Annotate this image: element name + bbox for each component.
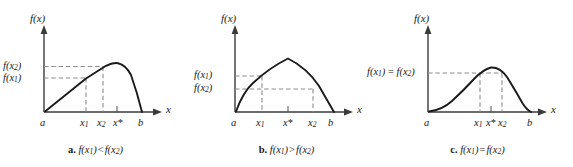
panel-b-plot bbox=[191, 0, 382, 167]
unimodal-function-figure: f(x) x f(x2) f(x1) a x1 x2 x* b a. f(x1)… bbox=[0, 0, 573, 167]
tick-label-a: a bbox=[231, 118, 236, 129]
panel-c-caption: c. f(x1)=f(x2) bbox=[382, 145, 573, 156]
x-axis-arrowhead bbox=[153, 109, 162, 116]
panel-b: f(x) x f(x1) f(x2) a x1 x* x2 b b. f(x1)… bbox=[191, 0, 382, 167]
y-axis-label: f(x) bbox=[414, 13, 429, 24]
caption-relation: > bbox=[288, 144, 296, 155]
tick-label-b: b bbox=[138, 118, 143, 129]
x-axis-arrowhead bbox=[538, 109, 547, 116]
panel-c-plot bbox=[382, 0, 573, 167]
x-axis-label: x bbox=[357, 104, 362, 115]
panel-c: f(x) x f(x1) = f(x2) a x1 x* x2 b c. f(x… bbox=[382, 0, 573, 167]
panel-a-caption: a. f(x1)<f(x2) bbox=[0, 145, 191, 156]
caption-relation: = bbox=[479, 144, 487, 155]
y-axis-label: f(x) bbox=[221, 13, 236, 24]
tick-label-b: b bbox=[328, 118, 333, 129]
panel-a-plot bbox=[0, 0, 191, 167]
function-curve bbox=[45, 63, 142, 112]
tick-label-x2: x2 bbox=[97, 118, 105, 129]
value-label-fx2: f(x2) bbox=[194, 83, 212, 94]
y-axis-arrowhead bbox=[41, 25, 48, 34]
panel-b-caption: b. f(x1)>f(x2) bbox=[191, 145, 382, 156]
tick-label-b: b bbox=[527, 118, 532, 129]
y-axis-label: f(x) bbox=[30, 13, 45, 24]
tick-label-xstar: x* bbox=[283, 118, 293, 129]
value-label-fx1: f(x1) bbox=[194, 70, 212, 81]
caption-letter: c. bbox=[450, 144, 457, 155]
x-axis-label: x bbox=[166, 104, 171, 115]
tick-label-x1: x1 bbox=[80, 118, 88, 129]
value-label-fx2: f(x2) bbox=[3, 61, 21, 72]
x-axis-label: x bbox=[551, 104, 556, 115]
tick-label-x1: x1 bbox=[256, 118, 264, 129]
caption-letter: b. bbox=[259, 144, 267, 155]
tick-label-xstar: x* bbox=[486, 118, 496, 129]
value-label-fx1: f(x1) bbox=[3, 73, 21, 84]
y-axis-arrowhead bbox=[425, 25, 432, 34]
x-axis-arrowhead bbox=[344, 109, 353, 116]
tick-label-x2: x2 bbox=[498, 118, 506, 129]
caption-relation: < bbox=[97, 144, 105, 155]
panel-a: f(x) x f(x2) f(x1) a x1 x2 x* b a. f(x1)… bbox=[0, 0, 191, 167]
function-curve bbox=[236, 59, 334, 113]
y-axis-arrowhead bbox=[232, 25, 239, 34]
tick-label-a: a bbox=[40, 118, 45, 129]
tick-label-x1: x1 bbox=[474, 118, 482, 129]
caption-letter: a. bbox=[68, 144, 76, 155]
tick-label-xstar: x* bbox=[113, 118, 123, 129]
tick-label-a: a bbox=[424, 118, 429, 129]
tick-label-x2: x2 bbox=[308, 118, 316, 129]
value-label-fx1-eq-fx2: f(x1) = f(x2) bbox=[367, 67, 415, 78]
